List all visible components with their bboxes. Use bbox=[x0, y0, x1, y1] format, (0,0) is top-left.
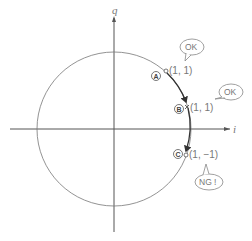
q-axis-arrow-icon bbox=[112, 16, 116, 22]
point-c-marker-icon bbox=[184, 153, 188, 157]
point-c-badge-label: C bbox=[176, 151, 181, 158]
point-c-callout-text: NG ! bbox=[199, 177, 216, 187]
i-axis-arrow-icon bbox=[224, 127, 230, 131]
point-b-callout-text: OK bbox=[224, 87, 237, 97]
point-c-coord: (1, −1) bbox=[189, 149, 218, 160]
point-a-badge-label: A bbox=[154, 73, 159, 80]
point-a-marker-icon bbox=[164, 69, 168, 73]
i-axis-label: i bbox=[233, 123, 236, 135]
point-b-coord: (1, 1) bbox=[190, 102, 213, 113]
iq-diagram: i q A (1, 1) OK B (1, 1) OK C (1, −1) NG… bbox=[0, 0, 252, 241]
point-a-callout-text: OK bbox=[185, 42, 198, 52]
point-b-badge-label: B bbox=[177, 106, 182, 113]
point-c-callout-tail bbox=[203, 164, 209, 175]
point-a-coord: (1, 1) bbox=[169, 65, 192, 76]
q-axis-label: q bbox=[112, 4, 118, 16]
trajectory-a-to-b bbox=[167, 73, 186, 102]
